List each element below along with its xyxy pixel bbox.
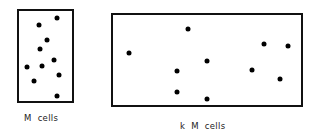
cell-dot	[55, 94, 60, 99]
cell-dot	[250, 68, 255, 73]
cell-dot	[278, 77, 283, 82]
cell-dot	[127, 51, 132, 56]
cell-dot	[205, 97, 210, 102]
cell-dot	[175, 90, 180, 95]
cell-dot	[32, 79, 37, 84]
cell-dot	[37, 23, 42, 28]
cell-dot	[52, 58, 57, 63]
km-cells-label: k M cells	[180, 121, 225, 131]
cell-dot	[186, 27, 191, 32]
cell-dot	[57, 73, 62, 78]
cell-dot	[262, 42, 267, 47]
cell-dot	[25, 65, 30, 70]
m-cells-label: M cells	[24, 113, 58, 123]
cell-dot	[205, 59, 210, 64]
m-cells-box	[17, 9, 74, 103]
cell-dot	[38, 47, 43, 52]
cell-dot	[175, 69, 180, 74]
cell-dot	[55, 16, 60, 21]
cell-dot	[45, 38, 50, 43]
cell-dot	[286, 44, 291, 49]
cell-dot	[40, 64, 45, 69]
